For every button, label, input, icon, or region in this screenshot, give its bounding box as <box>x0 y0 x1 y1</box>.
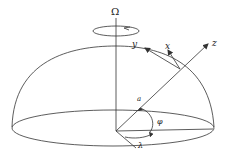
z-label: z <box>211 38 217 48</box>
omega-label: Ω <box>111 6 119 17</box>
hemisphere-diagram: Ω y x z a φ λ <box>0 0 227 158</box>
longitude-arc <box>125 134 152 138</box>
y-label: y <box>131 39 138 49</box>
x-axis <box>168 50 180 69</box>
lambda-label: λ <box>137 141 143 150</box>
phi-label: φ <box>157 117 163 126</box>
radius-label: a <box>137 95 141 103</box>
y-axis <box>145 48 180 69</box>
x-label: x <box>165 41 170 51</box>
equatorial-radius <box>116 129 213 131</box>
equator-ellipse <box>12 110 214 146</box>
meridian-projection <box>116 131 136 148</box>
